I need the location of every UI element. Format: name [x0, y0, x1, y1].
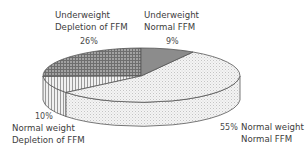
label-underweight-normal-line2: Normal FFM: [144, 22, 195, 33]
label-normal-weight-normal-line2: Normal FFM: [241, 134, 292, 145]
value-normal-weight-normal: 55%: [220, 123, 238, 133]
value-underweight-normal: 9%: [166, 37, 179, 47]
value-underweight-depletion: 26%: [80, 37, 98, 47]
label-underweight-normal-line1: Underweight: [144, 10, 199, 21]
label-normal-weight-depletion-line2: Depletion of FFM: [12, 135, 85, 146]
label-normal-weight-normal-line1: Normal weight: [241, 122, 304, 133]
label-underweight-depletion-line1: Underweight: [55, 10, 110, 21]
value-normal-weight-depletion: 10%: [35, 112, 53, 122]
label-normal-weight-depletion-line1: Normal weight: [12, 123, 75, 134]
label-underweight-depletion-line2: Depletion of FFM: [55, 22, 128, 33]
slice-underweight-depletion: [43, 48, 141, 77]
